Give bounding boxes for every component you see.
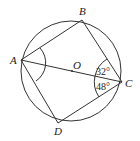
label-a: A: [9, 54, 17, 66]
angle-label-bca: 32°: [96, 66, 110, 77]
label-o: O: [73, 59, 81, 71]
label-d: D: [53, 125, 62, 137]
angle-label-acd: 48°: [96, 81, 110, 92]
label-b: B: [79, 5, 86, 17]
geometry-diagram: A B C D O 32° 48°: [0, 0, 140, 141]
segment-ab: [21, 20, 82, 60]
label-c: C: [125, 77, 133, 89]
segment-da: [21, 60, 58, 123]
